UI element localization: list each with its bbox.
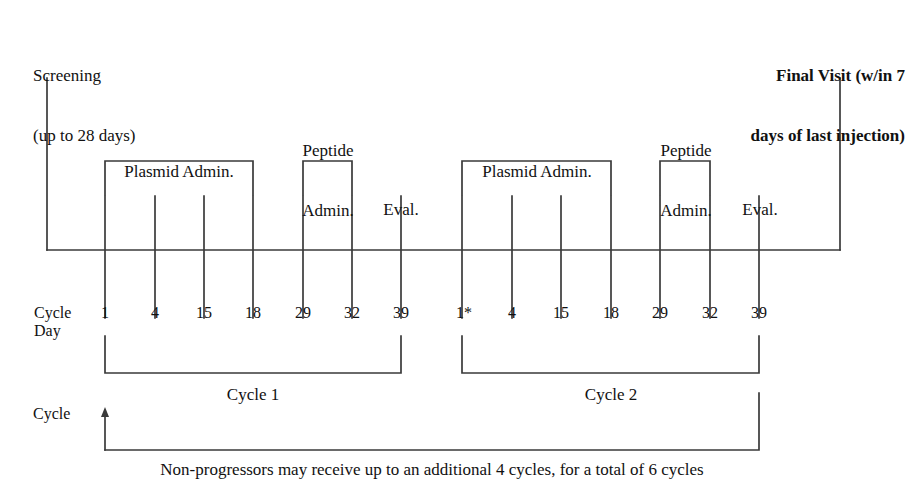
phase-label-c1-plasmid-line1: Plasmid Admin. (124, 162, 234, 182)
screening-label-line1: Screening (33, 66, 135, 86)
day-label-c2-1: 1* (456, 304, 472, 322)
day-label-c1-32: 32 (344, 304, 360, 322)
screening-label-line2: (up to 28 days) (33, 126, 135, 146)
day-label-c1-18: 18 (245, 304, 261, 322)
day-label-c1-1: 1 (101, 304, 109, 322)
phase-label-c1-peptide-line1: Peptide (302, 141, 353, 161)
trial-schema-diagram: Screening (up to 28 days) Final Visit (w… (0, 0, 918, 493)
bracket-cycle2-span (462, 336, 759, 373)
footnote-text: Non-progressors may receive up to an add… (160, 460, 703, 480)
cycle-name-1: Cycle 1 (227, 385, 279, 405)
day-label-c2-4: 4 (508, 304, 516, 322)
bracket-cycle1-span (105, 336, 401, 373)
axis-label-cycle-day-line2: Day (34, 322, 71, 340)
cycle-axis-arrowhead (101, 407, 109, 417)
day-label-c1-15: 15 (196, 304, 212, 322)
phase-label-c1-eval-line1: Eval. (383, 200, 418, 220)
phase-label-c2-peptide: Peptide Admin. (660, 101, 711, 261)
day-label-c2-39: 39 (751, 304, 767, 322)
phase-label-c1-peptide-line2: Admin. (302, 201, 353, 221)
phase-label-c1-eval: Eval. (383, 160, 418, 260)
bracket-all-cycles (105, 393, 759, 450)
axis-label-cycle-day-line1: Cycle (34, 304, 71, 322)
phase-label-c2-peptide-line2: Admin. (660, 201, 711, 221)
day-label-c1-4: 4 (151, 304, 159, 322)
phase-label-c2-peptide-line1: Peptide (660, 141, 711, 161)
phase-label-c1-peptide: Peptide Admin. (302, 101, 353, 261)
phase-label-c2-eval: Eval. (742, 160, 777, 260)
day-label-c2-15: 15 (553, 304, 569, 322)
phase-label-c1-plasmid: Plasmid Admin. (124, 122, 234, 222)
phase-label-c2-plasmid-line1: Plasmid Admin. (482, 162, 592, 182)
day-label-c2-32: 32 (702, 304, 718, 322)
phase-label-c2-plasmid: Plasmid Admin. (482, 122, 592, 222)
cycle-name-2: Cycle 2 (585, 385, 637, 405)
final-visit-label-line2: days of last injection) (751, 126, 905, 146)
day-label-c1-29: 29 (295, 304, 311, 322)
day-label-c2-18: 18 (603, 304, 619, 322)
axis-label-cycle-day: Cycle Day (34, 304, 71, 340)
day-label-c1-39: 39 (393, 304, 409, 322)
screening-label: Screening (up to 28 days) (33, 26, 135, 186)
axis-label-cycle: Cycle (33, 405, 70, 423)
day-label-c2-29: 29 (652, 304, 668, 322)
phase-label-c2-eval-line1: Eval. (742, 200, 777, 220)
final-visit-label-line1: Final Visit (w/in 7 (751, 66, 905, 86)
